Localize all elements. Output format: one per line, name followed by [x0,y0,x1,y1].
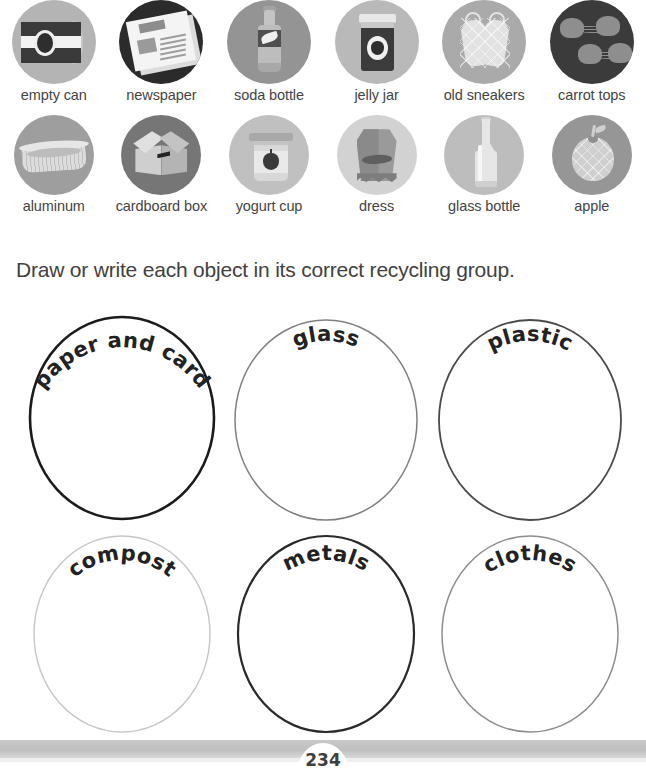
sorting-group-clothes[interactable]: clothes [430,512,630,722]
picture-label: carrot tops [558,88,625,103]
picture-item-glass-bottle[interactable]: glass bottle [430,115,538,214]
picture-label: old sneakers [444,88,525,103]
jelly-jar-icon [335,0,419,84]
picture-item-cardboard-box[interactable]: cardboard box [108,115,216,214]
picture-item-dress[interactable]: dress [323,115,431,214]
group-circle[interactable] [34,536,210,732]
picture-label: newspaper [126,88,196,103]
picture-item-empty-can[interactable]: empty can [0,0,108,103]
picture-label: empty can [21,88,87,103]
picture-item-newspaper[interactable]: newspaper [108,0,216,103]
yogurt-cup-icon [229,115,309,195]
picture-item-carrot-tops[interactable]: carrot tops [538,0,646,103]
picture-item-aluminum[interactable]: aluminum [0,115,108,214]
group-circle[interactable] [235,320,417,520]
soda-bottle-icon [227,0,311,84]
cardboard-box-icon [121,115,201,195]
picture-item-yogurt-cup[interactable]: yogurt cup [215,115,323,214]
old-sneakers-icon [442,0,526,84]
picture-bank: empty can newspaper [0,0,646,215]
group-circle[interactable] [439,320,621,520]
picture-label: jelly jar [354,88,398,103]
glass-bottle-icon [444,115,524,195]
empty-can-icon [12,0,96,84]
picture-row: empty can newspaper [0,0,646,103]
picture-item-old-sneakers[interactable]: old sneakers [430,0,538,103]
page-number: 234 [305,750,341,772]
picture-label: aluminum [23,199,85,214]
aluminum-tray-icon [14,115,94,195]
instruction-text: Draw or write each object in its correct… [16,258,515,282]
picture-label: cardboard box [116,199,207,214]
apple-icon [552,115,632,195]
carrot-tops-icon [550,0,634,84]
sorting-group-paper-and-card[interactable]: paper and card [22,300,222,510]
sorting-group-plastic[interactable]: plastic [430,300,630,510]
picture-item-apple[interactable]: apple [538,115,646,214]
dress-icon [337,115,417,195]
group-circle[interactable] [238,536,414,732]
sorting-group-glass[interactable]: glass [226,300,426,510]
group-circle[interactable] [442,536,618,732]
newspaper-icon [119,0,203,84]
picture-label: soda bottle [234,88,304,103]
picture-label: apple [574,199,609,214]
sorting-group-metals[interactable]: metals [226,512,426,722]
picture-item-jelly-jar[interactable]: jelly jar [323,0,431,103]
picture-row: aluminum cardboard box yogurt cup [0,115,646,214]
picture-label: dress [359,199,394,214]
picture-label: glass bottle [448,199,520,214]
sorting-groups-area: paper and card glass plastic compost [0,290,646,730]
picture-label: yogurt cup [236,199,303,214]
sorting-group-compost[interactable]: compost [22,512,222,722]
picture-item-soda-bottle[interactable]: soda bottle [215,0,323,103]
